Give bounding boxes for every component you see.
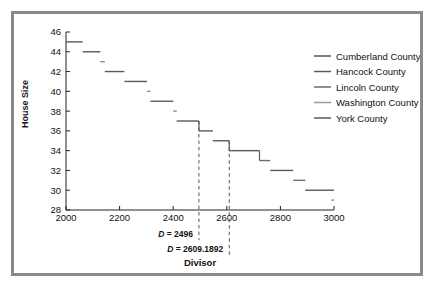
y-tick-label: 46 (50, 26, 61, 37)
legend-label: Washington County (336, 97, 419, 108)
step-series-group (66, 42, 334, 200)
divisor-annotation: D = 2496 (158, 229, 193, 239)
y-tick-label: 34 (50, 145, 61, 156)
legend: Cumberland CountyHancock CountyLincoln C… (314, 51, 420, 124)
y-tick-label: 44 (50, 46, 61, 57)
x-tick-label: 2000 (55, 212, 76, 223)
y-axis-title: House Size (20, 80, 34, 128)
divisor-annotation: D = 2609.1892 (167, 244, 223, 254)
axes (66, 32, 334, 210)
figure-frame: House Size 28303234363840424446 20002200… (11, 11, 423, 276)
x-tick-label: 2200 (109, 212, 130, 223)
x-tick-label: 3000 (323, 212, 344, 223)
y-tick-label: 32 (50, 165, 61, 176)
x-tick-label: 2400 (163, 212, 184, 223)
y-tick-group: 28303234363840424446 (50, 26, 70, 215)
x-tick-group: 200022002400260028003000 (55, 206, 344, 223)
legend-label: Hancock County (336, 66, 406, 77)
y-tick-label: 40 (50, 86, 61, 97)
plot-area: House Size 28303234363840424446 20002200… (14, 14, 420, 273)
x-tick-label: 2600 (216, 212, 237, 223)
legend-label: York County (336, 113, 388, 124)
y-tick-label: 30 (50, 185, 61, 196)
x-tick-label: 2800 (270, 212, 291, 223)
y-tick-label: 42 (50, 66, 61, 77)
y-tick-label: 36 (50, 125, 61, 136)
annotation-group: D = 2496D = 2609.1892 (158, 229, 223, 254)
step-chart: 28303234363840424446 2000220024002600280… (14, 14, 420, 273)
y-tick-label: 38 (50, 106, 61, 117)
legend-label: Lincoln County (336, 82, 399, 93)
x-axis-title: Divisor (184, 257, 217, 268)
legend-label: Cumberland County (336, 51, 420, 62)
